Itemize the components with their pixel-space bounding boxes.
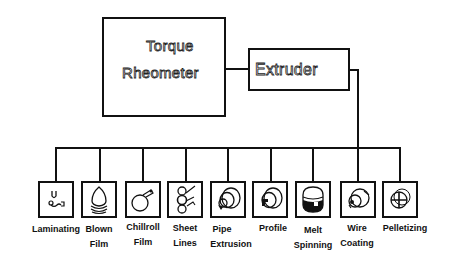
- profile-icon: [254, 183, 286, 216]
- sheet-lines-icon: [169, 183, 201, 216]
- drop-blown-film: [99, 147, 101, 182]
- pipe-extrusion-node: [210, 181, 246, 218]
- extruder-node: Extruder: [248, 48, 350, 91]
- pelletizing-node: [382, 181, 418, 218]
- connector-extruder-down: [357, 69, 359, 149]
- drop-pipe-extrusion: [227, 147, 229, 182]
- rheometer-label-line2: Rheometer: [122, 64, 199, 81]
- laminating-node: [38, 181, 74, 218]
- pelletizing-label: Pelletizing: [365, 221, 445, 236]
- melt-spinning-node: [295, 181, 331, 218]
- wire-coating-icon: [342, 183, 374, 216]
- torque-rheometer-node: Torque Rheometer: [102, 17, 226, 117]
- melt-spinning-icon: [297, 183, 329, 216]
- laminating-icon: [40, 183, 72, 216]
- sheet-lines-node: [167, 181, 203, 218]
- drop-wire-coating: [357, 147, 359, 182]
- blown-film-node: [81, 181, 117, 218]
- rheometer-label-line1: Torque: [146, 37, 194, 54]
- drop-profile: [270, 147, 272, 182]
- drop-laminating: [55, 147, 57, 182]
- drop-melt-spinning: [312, 147, 314, 182]
- drop-sheet-lines: [185, 147, 187, 182]
- blown-film-icon: [83, 183, 115, 216]
- chillroll-icon: [127, 183, 159, 216]
- chillroll-film-node: [125, 181, 161, 218]
- pelletizing-icon: [384, 183, 416, 216]
- drop-pelletizing: [399, 147, 401, 182]
- pipe-icon: [212, 183, 244, 216]
- extruder-label: Extruder: [255, 61, 318, 79]
- wire-coating-node: [340, 181, 376, 218]
- profile-node: [252, 181, 288, 218]
- drop-chillroll-film: [142, 147, 144, 182]
- connector-rheometer-extruder: [225, 68, 249, 70]
